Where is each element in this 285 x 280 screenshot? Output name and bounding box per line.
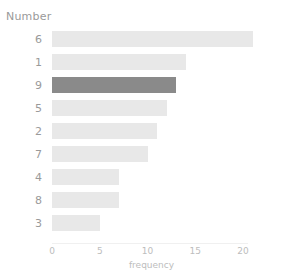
bar-row: 8 bbox=[0, 189, 285, 212]
category-label: 4 bbox=[0, 166, 42, 189]
bar-row: 4 bbox=[0, 166, 285, 189]
bar-chart: Number 619527483 frequency 05101520 bbox=[0, 0, 285, 280]
category-label: 6 bbox=[0, 28, 42, 51]
bar[interactable] bbox=[52, 215, 100, 231]
category-label: 1 bbox=[0, 51, 42, 74]
category-label: 8 bbox=[0, 189, 42, 212]
category-label: 7 bbox=[0, 143, 42, 166]
bar[interactable] bbox=[52, 123, 157, 139]
bar-row: 2 bbox=[0, 120, 285, 143]
x-axis-tick-label: 10 bbox=[133, 246, 163, 256]
bar[interactable] bbox=[52, 31, 253, 47]
plot-area: 619527483 bbox=[0, 28, 285, 240]
bar-row: 1 bbox=[0, 51, 285, 74]
x-axis-tick-label: 5 bbox=[85, 246, 115, 256]
bar-row: 9 bbox=[0, 74, 285, 97]
bar[interactable] bbox=[52, 54, 186, 70]
bar-row: 5 bbox=[0, 97, 285, 120]
bar-row: 3 bbox=[0, 212, 285, 235]
category-label: 5 bbox=[0, 97, 42, 120]
category-label: 9 bbox=[0, 74, 42, 97]
x-axis-title: frequency bbox=[0, 260, 285, 270]
x-axis-title-label: frequency bbox=[111, 260, 174, 270]
x-axis-tick-label: 15 bbox=[180, 246, 210, 256]
y-axis-title: Number bbox=[6, 10, 51, 23]
bar[interactable] bbox=[52, 100, 167, 116]
bar[interactable] bbox=[52, 192, 119, 208]
x-axis-tick-label: 0 bbox=[37, 246, 67, 256]
bar[interactable] bbox=[52, 169, 119, 185]
bar-row: 7 bbox=[0, 143, 285, 166]
category-label: 3 bbox=[0, 212, 42, 235]
x-axis-line bbox=[52, 243, 248, 244]
x-axis-tick-label: 20 bbox=[228, 246, 258, 256]
category-label: 2 bbox=[0, 120, 42, 143]
bar[interactable] bbox=[52, 77, 176, 93]
bar-row: 6 bbox=[0, 28, 285, 51]
bar[interactable] bbox=[52, 146, 148, 162]
